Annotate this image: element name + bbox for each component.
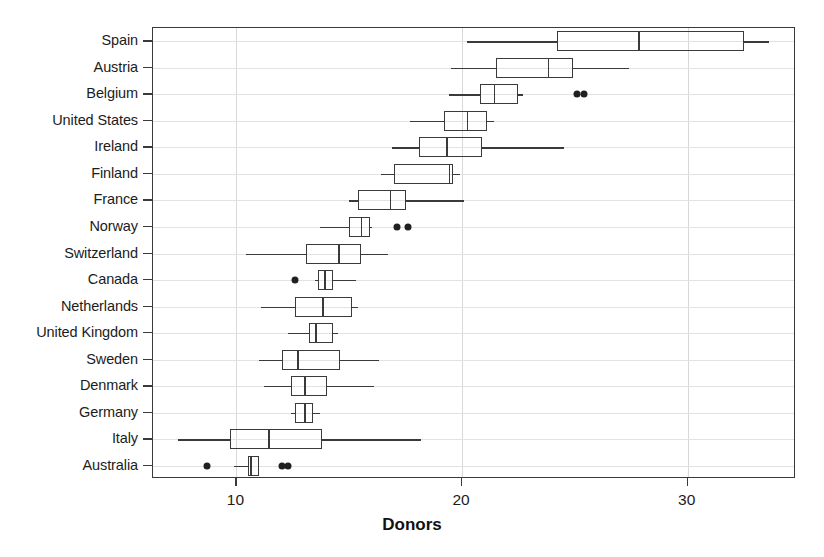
x-axis-label-10: 10 bbox=[227, 491, 244, 509]
y-axis-label-italy: Italy bbox=[0, 430, 138, 446]
y-axis-tick bbox=[143, 306, 152, 307]
y-axis-tick bbox=[143, 253, 152, 254]
plot-area bbox=[152, 27, 795, 478]
y-axis-tick bbox=[143, 67, 152, 68]
y-axis-tick bbox=[143, 226, 152, 227]
y-axis-tick bbox=[143, 279, 152, 280]
x-axis-title: Donors bbox=[0, 515, 824, 535]
y-axis-tick bbox=[143, 146, 152, 147]
box-plot-australia bbox=[153, 28, 794, 477]
y-axis-label-belgium: Belgium bbox=[0, 85, 138, 101]
y-axis-label-france: France bbox=[0, 191, 138, 207]
x-axis-tick-10 bbox=[235, 478, 236, 486]
outlier-point bbox=[204, 462, 211, 469]
y-axis-label-ireland: Ireland bbox=[0, 138, 138, 154]
y-axis-label-canada: Canada bbox=[0, 271, 138, 287]
outlier-point bbox=[285, 462, 292, 469]
y-axis-label-austria: Austria bbox=[0, 59, 138, 75]
y-axis-tick bbox=[143, 199, 152, 200]
y-axis-label-sweden: Sweden bbox=[0, 351, 138, 367]
x-axis-tick-30 bbox=[687, 478, 688, 486]
y-axis-label-united-states: United States bbox=[0, 112, 138, 128]
y-axis-tick bbox=[143, 438, 152, 439]
whisker-low-line bbox=[234, 466, 248, 467]
median-line bbox=[250, 456, 252, 476]
y-axis-label-united-kingdom: United Kingdom bbox=[0, 324, 138, 340]
y-axis-label-finland: Finland bbox=[0, 165, 138, 181]
y-axis-tick bbox=[143, 359, 152, 360]
y-axis-label-switzerland: Switzerland bbox=[0, 245, 138, 261]
boxplot-figure: SpainAustriaBelgiumUnited StatesIrelandF… bbox=[0, 0, 824, 557]
x-axis-tick-20 bbox=[461, 478, 462, 486]
x-axis-label-20: 20 bbox=[452, 491, 469, 509]
y-axis-tick bbox=[143, 40, 152, 41]
y-axis-label-australia: Australia bbox=[0, 457, 138, 473]
y-axis-tick bbox=[143, 332, 152, 333]
y-axis-label-spain: Spain bbox=[0, 32, 138, 48]
y-axis-tick bbox=[143, 93, 152, 94]
y-axis-tick bbox=[143, 173, 152, 174]
y-axis-label-denmark: Denmark bbox=[0, 377, 138, 393]
y-axis-tick bbox=[143, 465, 152, 466]
y-axis-tick bbox=[143, 120, 152, 121]
y-axis-label-germany: Germany bbox=[0, 404, 138, 420]
x-axis-label-30: 30 bbox=[678, 491, 695, 509]
y-axis-tick bbox=[143, 385, 152, 386]
y-axis-tick bbox=[143, 412, 152, 413]
y-axis-label-netherlands: Netherlands bbox=[0, 298, 138, 314]
y-axis-label-norway: Norway bbox=[0, 218, 138, 234]
